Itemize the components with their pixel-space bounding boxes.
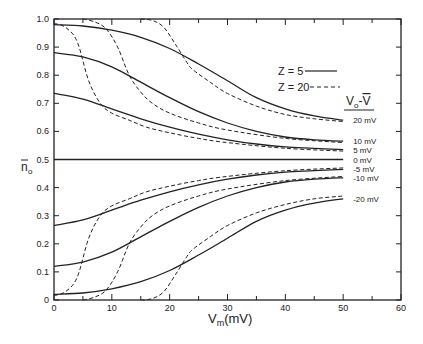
y-tick-label: 0.1: [36, 267, 49, 277]
curve-label-header: Vo-V: [344, 94, 374, 110]
y-axis-title: n o: [21, 160, 33, 176]
y-tick-label: 0.7: [36, 98, 49, 108]
x-tick-label: 0: [51, 303, 56, 313]
plot-curves: [54, 19, 343, 300]
y-tick-label: 0.8: [36, 70, 49, 80]
x-axis-title: Vm(mV): [208, 311, 252, 328]
curve-label: 20 mV: [353, 116, 377, 125]
legend-label-z5: Z = 5: [278, 65, 303, 77]
svg-text:n: n: [21, 160, 28, 174]
y-tick-label: 0.6: [36, 126, 49, 136]
svg-text:Vm(mV): Vm(mV): [208, 311, 252, 328]
curve-dashed: [141, 19, 343, 122]
curve-dashed: [83, 176, 343, 300]
curve-label: -10 mV: [353, 174, 379, 183]
curve-dashed: [141, 196, 343, 300]
legend-label-z20: Z = 20: [278, 81, 310, 93]
curve-dashed: [54, 168, 343, 296]
svg-text:o: o: [28, 167, 33, 176]
curve-labels: 20 mV10 mV5 mV0 mV-5 mV-10 mV-20 mV: [353, 116, 379, 204]
curve-label: 0 mV: [353, 156, 372, 165]
curve-label: 5 mV: [353, 146, 372, 155]
y-tick-label: 0.3: [36, 211, 49, 221]
y-tick-label: 0: [44, 295, 49, 305]
legend: Z = 5 Z = 20: [278, 65, 340, 93]
x-tick-label: 60: [396, 303, 406, 313]
y-tick-label: 1.0: [36, 14, 49, 24]
x-tick-label: 50: [338, 303, 348, 313]
x-tick-label: 40: [280, 303, 290, 313]
curve-solid: [54, 178, 343, 266]
curve-label: -20 mV: [353, 195, 379, 204]
curve-solid: [54, 169, 343, 225]
curve-label-header-text: Vo-V: [346, 94, 370, 110]
chart: 010203040506000.10.20.30.40.50.60.70.80.…: [0, 0, 423, 344]
y-tick-label: 0.5: [36, 155, 49, 165]
x-tick-label: 20: [165, 303, 175, 313]
y-tick-label: 0.4: [36, 183, 49, 193]
y-tick-label: 0.2: [36, 239, 49, 249]
x-tick-label: 10: [107, 303, 117, 313]
curve-solid: [54, 93, 343, 149]
curve-solid: [54, 199, 343, 295]
y-tick-label: 0.9: [36, 42, 49, 52]
